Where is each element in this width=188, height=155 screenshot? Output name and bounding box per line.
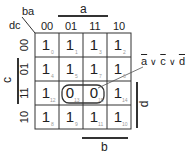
variable-label-b: b bbox=[101, 140, 108, 154]
corner-label-dc: dc bbox=[9, 19, 21, 31]
row-header: 01 bbox=[18, 57, 30, 81]
variable-label-c: c bbox=[0, 77, 14, 83]
cell-value: 1 bbox=[34, 109, 58, 125]
cell-index: 15 bbox=[98, 97, 104, 103]
cell-index: 0 bbox=[51, 49, 54, 55]
column-header: 10 bbox=[107, 20, 131, 32]
cell-index: 6 bbox=[123, 73, 126, 79]
cell-index: 13 bbox=[74, 97, 80, 103]
cell-index: 14 bbox=[122, 97, 128, 103]
cell-value: 1 bbox=[58, 61, 82, 77]
column-header: 00 bbox=[35, 20, 59, 32]
cell-index: 5 bbox=[75, 73, 78, 79]
column-header: 11 bbox=[83, 20, 107, 32]
row-header: 10 bbox=[18, 105, 30, 129]
cell-index: 11 bbox=[98, 121, 103, 127]
cell-value: 1 bbox=[82, 37, 106, 53]
column-header: 01 bbox=[59, 20, 83, 32]
cell-index: 9 bbox=[75, 121, 78, 127]
expr-term-a: a bbox=[141, 55, 147, 67]
cell-value: 1 bbox=[34, 37, 58, 53]
expr-term-d: d bbox=[179, 55, 185, 67]
cell-value: 1 bbox=[58, 109, 82, 125]
cell-index: 3 bbox=[99, 49, 102, 55]
cell-value: 1 bbox=[34, 61, 58, 77]
corner-label-ba: ba bbox=[22, 5, 34, 17]
expr-term-c: c bbox=[160, 55, 166, 67]
cell-index: 4 bbox=[51, 73, 54, 79]
cell-index: 8 bbox=[51, 121, 54, 127]
cell-index: 1 bbox=[75, 49, 78, 55]
group-expression: a ∨ c ∨ d bbox=[141, 55, 185, 67]
cell-value: 1 bbox=[58, 37, 82, 53]
row-header: 00 bbox=[18, 33, 30, 57]
cell-index: 12 bbox=[50, 97, 56, 103]
cell-value: 1 bbox=[82, 61, 106, 77]
expr-or: ∨ bbox=[169, 57, 176, 67]
cell-index: 10 bbox=[122, 121, 128, 127]
variable-label-a: a bbox=[80, 2, 87, 16]
cell-value: 1 bbox=[106, 61, 130, 77]
cell-value: 1 bbox=[106, 37, 130, 53]
row-header: 11 bbox=[18, 81, 30, 105]
corner-diagonal bbox=[22, 17, 35, 33]
cell-index: 7 bbox=[99, 73, 102, 79]
variable-label-d: d bbox=[137, 101, 151, 108]
expr-or: ∨ bbox=[150, 57, 157, 67]
cell-index: 2 bbox=[123, 49, 126, 55]
